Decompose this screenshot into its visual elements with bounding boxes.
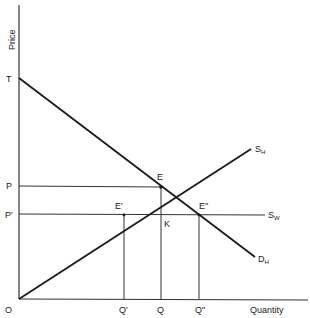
x-axis (19, 299, 308, 300)
point-label-e-prime: E' (115, 201, 123, 211)
curve-label-home-supply: SH (255, 144, 265, 155)
price-label-p-prime: P' (5, 210, 13, 220)
point-label-e: E (157, 172, 163, 182)
quantity-label-q: Q (157, 305, 164, 315)
price-label-t: T (6, 74, 12, 84)
point-e-prime-marker (123, 214, 126, 217)
price-label-p: P (6, 181, 12, 191)
world-supply-line (19, 214, 265, 215)
x-axis-label: Quantity (250, 305, 284, 315)
point-label-e-double-prime: E" (199, 201, 208, 211)
point-e-marker (159, 185, 163, 189)
curve-label-world-supply: SW (268, 210, 280, 221)
home-supply-curve (19, 149, 251, 299)
quantity-label-q-prime: Q' (119, 305, 128, 315)
quantity-label-q-double-prime: Q" (195, 305, 205, 315)
point-e-double-prime-marker (198, 214, 201, 217)
curve-label-home-demand: DH (258, 254, 269, 265)
price-line-p (19, 186, 161, 187)
diagram-canvas: Price Quantity O T P P' Q' Q Q" E E' E" … (0, 0, 310, 318)
point-label-k: K (164, 219, 170, 229)
y-axis-label: Price (7, 29, 17, 50)
home-demand-curve (19, 78, 255, 257)
origin-label: O (5, 305, 12, 315)
